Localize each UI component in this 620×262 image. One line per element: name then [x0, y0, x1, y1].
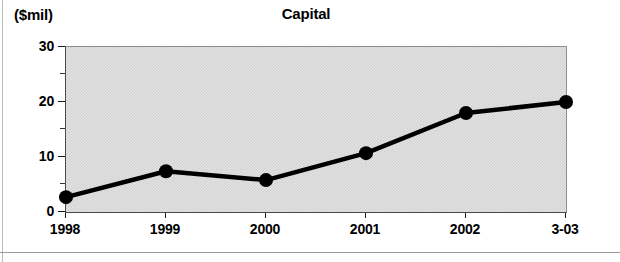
y-axis-label-0: 0 — [20, 204, 54, 218]
data-point-1998 — [59, 190, 73, 204]
y-axis-label-30: 30 — [20, 39, 54, 53]
y-axis-label-10: 10 — [20, 149, 54, 163]
y-tick-0 — [58, 211, 65, 212]
y-axis-label-20: 20 — [20, 94, 54, 108]
x-axis-label-2000: 2000 — [225, 222, 305, 236]
chart-title: Capital — [236, 5, 376, 22]
y-tick-20 — [58, 101, 65, 102]
y-tick-10 — [58, 156, 65, 157]
y-tick-30 — [58, 46, 65, 47]
series-line — [66, 102, 566, 197]
x-axis-label-3-03: 3-03 — [525, 222, 605, 236]
figure-left-rule — [2, 0, 3, 262]
data-point-1999 — [159, 164, 173, 178]
data-point-2002 — [459, 106, 473, 120]
capital-line-series — [66, 47, 566, 212]
y-axis-unit-label: ($mil) — [14, 6, 53, 23]
data-point-2001 — [359, 146, 373, 160]
x-axis-label-2002: 2002 — [425, 222, 505, 236]
x-axis-label-1998: 1998 — [25, 222, 105, 236]
data-point-3-03 — [559, 95, 573, 109]
plot-area — [65, 46, 567, 213]
x-axis-label-2001: 2001 — [325, 222, 405, 236]
data-point-2000 — [259, 173, 273, 187]
figure-bottom-rule — [0, 252, 620, 253]
chart-figure: ($mil) Capital 30 20 10 0 1998 1999 2000… — [0, 0, 620, 262]
x-axis-label-1999: 1999 — [125, 222, 205, 236]
